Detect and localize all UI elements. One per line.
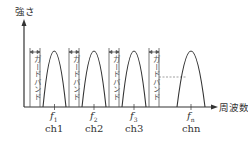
- guard-band-label-4: ガードバンド: [149, 55, 159, 100]
- guard-band-label-3: ガードバンド: [109, 55, 119, 100]
- channel-label-3: ch3: [125, 124, 143, 134]
- freq-label-n: fn: [187, 111, 195, 123]
- guard-band-label-1: ガードバンド: [30, 55, 40, 100]
- freq-label-2: f2: [90, 111, 98, 123]
- y-axis-arrow-icon: [22, 19, 27, 26]
- channel-peak-2: [82, 51, 106, 107]
- y-axis-label: 強さ: [15, 7, 35, 17]
- channel-peak-1: [43, 51, 66, 107]
- x-axis-label: 周波数: [219, 103, 248, 113]
- channel-label-n: chn: [182, 124, 200, 134]
- channel-peak-3: [122, 51, 146, 107]
- channel-label-1: ch1: [45, 124, 63, 134]
- x-axis-arrow-icon: [211, 105, 218, 110]
- freq-label-1: f1: [50, 111, 58, 123]
- channel-peak-n: [177, 51, 205, 107]
- channel-label-2: ch2: [85, 124, 103, 134]
- guard-band-label-2: ガードバンド: [69, 55, 79, 100]
- freq-label-3: f3: [130, 111, 138, 123]
